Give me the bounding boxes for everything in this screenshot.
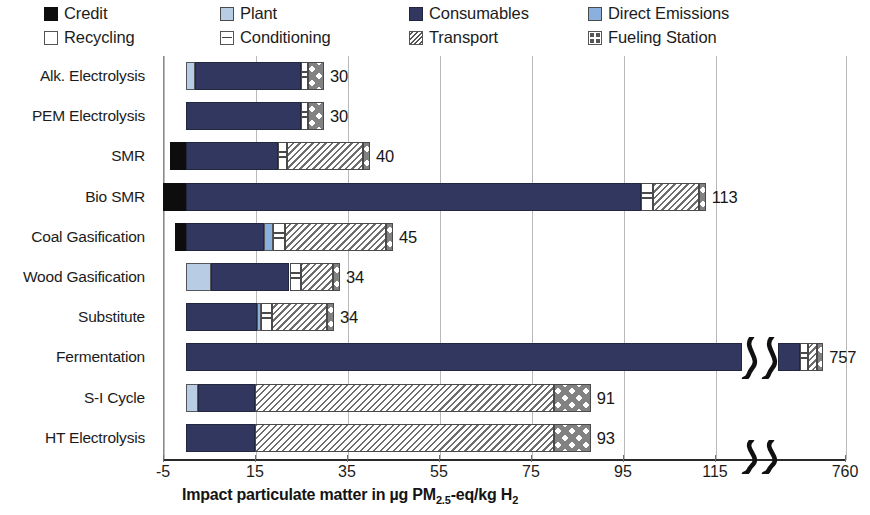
conditioning-swatch-icon: [220, 31, 234, 45]
bar-segment-credit: [175, 223, 187, 251]
bar-value-label: 93: [597, 427, 615, 449]
bar-segment-fueling: [699, 183, 706, 211]
legend-item-fueling-station: Fueling Station: [588, 26, 717, 49]
x-axis-tick-mark: [347, 455, 348, 462]
bar-segment-fueling: [554, 424, 591, 452]
legend-item-recycling: Recycling: [44, 26, 135, 49]
bar-value-label: 34: [346, 266, 364, 288]
bar-value-label: 45: [399, 226, 417, 248]
bar-segment-fueling: [308, 102, 324, 130]
legend-row-bottom: Recycling Conditioning Transport Fueling…: [0, 26, 870, 49]
bar-segment-fueling: [386, 223, 393, 251]
stacked-bar-chart: Credit Plant Consumables Direct Emission…: [0, 0, 870, 515]
bar-segment-conditioning: [301, 62, 308, 90]
legend-label-credit: Credit: [64, 2, 107, 25]
bar-row: 113: [0, 183, 870, 211]
bar-segment-fueling: [308, 62, 324, 90]
x-axis-tick-mark: [715, 455, 716, 462]
bar-row: 34: [0, 263, 870, 291]
bar-segment-conditioning: [290, 263, 302, 291]
bar-value-label: 30: [330, 105, 348, 127]
legend-label-direct-emissions: Direct Emissions: [608, 2, 729, 25]
plant-swatch-icon: [220, 7, 234, 21]
bar-segment-consumables: [186, 424, 255, 452]
bar-segment-fueling: [554, 384, 591, 412]
x-axis-title-part-a: Impact particulate matter in µg PM: [182, 486, 436, 503]
x-axis-tick-labels: -51535557595115760: [0, 462, 870, 486]
x-axis-title-sub-a: 2.5: [436, 494, 451, 506]
bar-segment-fueling: [327, 303, 334, 331]
bar-segment-plant: [186, 263, 211, 291]
bar-segment-transport: [255, 424, 554, 452]
bar-segment-conditioning: [641, 183, 653, 211]
x-axis-tick-label: 15: [246, 462, 264, 482]
bar-segment-conditioning: [800, 343, 808, 371]
x-axis-tick-mark: [623, 455, 624, 462]
bar-row: 30: [0, 62, 870, 90]
bar-segment-consumables: [198, 384, 256, 412]
legend-label-transport: Transport: [429, 26, 498, 49]
bar-segment-consumables: [211, 263, 289, 291]
x-axis-line: [163, 459, 846, 461]
x-axis-tick-label: 55: [430, 462, 448, 482]
bar-row: 34: [0, 303, 870, 331]
bar-segment-consumables: [186, 102, 301, 130]
credit-swatch-icon: [44, 7, 58, 21]
bar-segment-conditioning: [278, 142, 287, 170]
bar-segment-transport: [272, 303, 327, 331]
bar-segment-consumables: [186, 142, 278, 170]
bar-segment-consumables: [186, 303, 257, 331]
bar-segment-credit: [170, 142, 186, 170]
bar-value-label: 757: [829, 346, 856, 368]
legend-item-conditioning: Conditioning: [220, 26, 331, 49]
bar-segment-transport: [287, 142, 363, 170]
bar-segment-conditioning: [301, 102, 308, 130]
legend-label-consumables: Consumables: [429, 2, 529, 25]
bar-segment-consumables: [195, 62, 301, 90]
x-axis-tick-mark: [845, 455, 846, 462]
x-axis-tick-label: 75: [522, 462, 540, 482]
legend-item-credit: Credit: [44, 2, 107, 25]
transport-swatch-icon: [409, 31, 423, 45]
bar-segment-consumables: [186, 343, 742, 371]
bar-row: 757: [0, 343, 870, 371]
legend-item-transport: Transport: [409, 26, 498, 49]
x-axis-tick-label: 760: [832, 462, 859, 482]
bar-value-label: 91: [597, 387, 615, 409]
bar-segment-transport: [301, 263, 333, 291]
bar-row: 91: [0, 384, 870, 412]
bar-row: 40: [0, 142, 870, 170]
bar-segment-consumables: [186, 183, 641, 211]
bar-value-label: 40: [376, 145, 394, 167]
bar-segment-transport: [285, 223, 386, 251]
bar-segment-consumables: [186, 223, 264, 251]
bar-value-label: 34: [340, 306, 358, 328]
fueling-station-swatch-icon: [588, 31, 602, 45]
bar-row: 93: [0, 424, 870, 452]
legend-label-conditioning: Conditioning: [240, 26, 331, 49]
bar-segment-fueling: [817, 343, 823, 371]
recycling-swatch-icon: [44, 31, 58, 45]
x-axis-tick-label: -5: [156, 462, 170, 482]
legend-item-direct-emissions: Direct Emissions: [588, 2, 729, 25]
x-axis-title: Impact particulate matter in µg PM2.5-eq…: [0, 486, 700, 506]
x-axis-tick-label: 35: [338, 462, 356, 482]
bar-segment-fueling: [333, 263, 340, 291]
chart-legend: Credit Plant Consumables Direct Emission…: [0, 2, 870, 50]
x-axis-tick-mark: [163, 455, 164, 462]
bar-segment-transport: [808, 343, 817, 371]
bar-value-label: 30: [330, 65, 348, 87]
bar-value-label: 113: [712, 186, 738, 208]
direct-emissions-swatch-icon: [588, 7, 602, 21]
x-axis-tick-mark: [439, 455, 440, 462]
bar-segment-conditioning: [273, 223, 285, 251]
consumables-swatch-icon: [409, 7, 423, 21]
x-axis-tick-label: 95: [614, 462, 632, 482]
bar-row: 45: [0, 223, 870, 251]
bar-segment-consumables: [778, 343, 800, 371]
bar-segment-direct: [264, 223, 273, 251]
bar-segment-credit: [163, 183, 186, 211]
x-axis-title-sub-b: 2: [512, 494, 518, 506]
bar-segment-conditioning: [261, 303, 273, 331]
legend-label-fueling-station: Fueling Station: [608, 26, 717, 49]
